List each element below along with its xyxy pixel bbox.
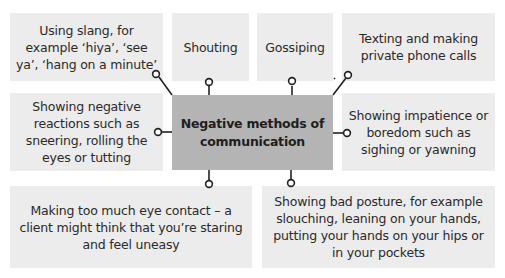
- box-gossiping: Gossiping: [257, 13, 333, 81]
- box-shouting: Shouting: [172, 13, 249, 81]
- box-label: Using slang, for example ‘hiya’, ‘see ya…: [16, 22, 157, 73]
- box-negative-reactions: Showing negative reactions such as sneer…: [10, 93, 163, 171]
- box-posture: Showing bad posture, for example slouchi…: [262, 186, 495, 268]
- box-slang: Using slang, for example ‘hiya’, ‘see ya…: [10, 13, 163, 81]
- connector-shouting-icon: [206, 79, 213, 95]
- box-label: Showing impatience or boredom such as si…: [348, 107, 489, 158]
- center-label: Negative methods of communication: [178, 115, 327, 151]
- box-label: Gossiping: [265, 39, 324, 56]
- connector-posture-icon: [288, 170, 295, 186]
- box-label: Showing negative reactions such as sneer…: [16, 98, 157, 166]
- box-label: Making too much eye contact – a client m…: [16, 202, 246, 253]
- box-label: Showing bad posture, for example slouchi…: [266, 193, 491, 261]
- box-eye-contact: Making too much eye contact – a client m…: [10, 186, 252, 268]
- box-label: Texting and making private phone calls: [348, 30, 489, 64]
- connector-eye-contact-icon: [206, 170, 213, 187]
- box-impatience: Showing impatience or boredom such as si…: [342, 93, 495, 171]
- box-texting: Texting and making private phone calls: [342, 13, 495, 81]
- center-topic: Negative methods of communication: [172, 95, 333, 170]
- box-label: Shouting: [183, 39, 237, 56]
